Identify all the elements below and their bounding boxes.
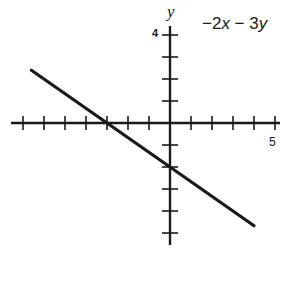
equation-var-x: x xyxy=(221,14,230,33)
equation-coef-x: −2 xyxy=(202,14,221,33)
x-tick-label-5: 5 xyxy=(269,135,276,149)
coordinate-plot xyxy=(0,0,287,289)
equation-var-y: y xyxy=(259,14,268,33)
equation-label: −2x − 3y xyxy=(202,14,267,34)
y-tick-label-4: 4 xyxy=(152,27,158,39)
y-axis-label: y xyxy=(167,2,175,22)
equation-line xyxy=(31,70,254,226)
equation-coef-y: − 3 xyxy=(230,14,259,33)
